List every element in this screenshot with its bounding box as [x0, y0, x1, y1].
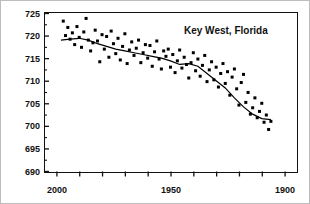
data-point — [208, 68, 211, 71]
data-point — [215, 66, 218, 69]
y-axis-tick-label: 695 — [25, 145, 40, 153]
x-axis-tick-label: 1950 — [151, 185, 191, 195]
data-point — [269, 120, 272, 123]
data-point — [258, 110, 261, 113]
data-point — [62, 20, 65, 23]
data-point — [263, 121, 266, 124]
data-point — [64, 34, 67, 37]
data-point — [183, 56, 186, 59]
data-point — [235, 87, 238, 90]
data-point — [226, 70, 229, 73]
data-point — [176, 59, 179, 62]
data-point — [233, 67, 236, 70]
y-axis-tick-label: 705 — [25, 100, 40, 108]
data-point — [162, 49, 165, 52]
data-point — [253, 96, 256, 99]
data-point — [164, 55, 167, 58]
data-point — [146, 57, 149, 60]
data-point — [144, 43, 147, 46]
data-point — [174, 71, 177, 74]
data-point — [151, 65, 154, 68]
data-point — [247, 91, 250, 94]
data-point — [75, 25, 78, 28]
data-point — [224, 82, 227, 85]
data-point — [112, 42, 115, 45]
data-point — [178, 49, 181, 52]
data-point — [89, 49, 92, 52]
data-point — [231, 76, 234, 79]
data-point — [167, 48, 170, 51]
data-point — [194, 69, 197, 72]
data-point — [126, 62, 129, 65]
data-point — [160, 67, 163, 70]
data-point — [132, 54, 135, 57]
chart-figure: Distance above Reference Level (cm) 6906… — [0, 0, 310, 204]
data-point — [267, 128, 270, 131]
data-point — [187, 77, 190, 80]
y-axis-tick-label: 690 — [25, 168, 40, 176]
data-point — [117, 37, 120, 40]
data-point — [171, 53, 174, 56]
data-point — [180, 67, 183, 70]
data-point — [139, 61, 142, 64]
data-point — [242, 73, 245, 76]
data-point — [251, 106, 254, 109]
data-point — [260, 102, 263, 105]
plot-canvas — [45, 13, 296, 171]
data-point — [73, 43, 76, 46]
data-point — [121, 45, 124, 48]
y-axis-tick-label: 710 — [25, 77, 40, 85]
y-axis-tick-labels: 690695700705710715720725 — [1, 1, 40, 204]
data-point — [130, 40, 133, 43]
data-point — [110, 30, 113, 33]
data-point — [98, 60, 101, 63]
y-axis-tick-label: 700 — [25, 122, 40, 130]
data-point — [203, 54, 206, 57]
data-point — [169, 66, 172, 69]
data-point — [96, 39, 99, 42]
data-point — [221, 62, 224, 65]
data-point — [217, 86, 220, 89]
data-point — [148, 44, 151, 47]
x-axis-tick-labels: 200019501900 — [1, 177, 310, 193]
y-axis-tick-label: 715 — [25, 55, 40, 63]
data-point — [244, 101, 247, 104]
y-axis-tick-label: 725 — [25, 10, 40, 18]
data-point — [135, 47, 138, 50]
data-point — [210, 60, 213, 63]
data-point — [153, 50, 156, 53]
data-point — [94, 29, 97, 32]
data-point — [114, 52, 117, 55]
x-axis-tick-label: 1900 — [265, 185, 305, 195]
plot-area — [44, 12, 298, 173]
data-point — [219, 72, 222, 75]
data-point — [206, 80, 209, 83]
data-point — [199, 75, 202, 78]
data-point — [123, 32, 126, 35]
data-point — [85, 17, 88, 20]
data-point — [66, 26, 69, 29]
data-point — [201, 64, 204, 67]
data-point — [80, 46, 83, 49]
chart-title: Key West, Florida — [184, 25, 268, 36]
data-point — [155, 39, 158, 42]
data-point — [101, 33, 104, 36]
data-point — [105, 35, 108, 38]
data-point — [103, 48, 106, 51]
data-point — [240, 81, 243, 84]
data-point — [107, 56, 110, 59]
data-point — [192, 51, 195, 54]
data-point — [71, 31, 74, 34]
data-point — [137, 39, 140, 42]
data-point — [196, 58, 199, 61]
trend-line — [61, 38, 271, 119]
data-point — [82, 30, 85, 33]
x-axis-tick-label: 2000 — [37, 185, 77, 195]
data-point — [119, 58, 122, 61]
data-point — [265, 114, 268, 117]
y-axis-tick-label: 720 — [25, 32, 40, 40]
